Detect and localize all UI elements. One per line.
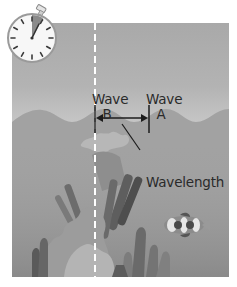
wave-b-label-line1: Wave (92, 92, 122, 107)
wave-a-label-line2: A (146, 107, 176, 122)
wave-b-label: Wave B (92, 92, 122, 122)
stopwatch-icon (3, 3, 63, 65)
wave-a-label-line1: Wave (146, 92, 176, 107)
wave-a-label: Wave A (146, 92, 176, 122)
wavelength-label: Wavelength (146, 175, 216, 190)
wave-b-label-line2: B (92, 107, 122, 122)
